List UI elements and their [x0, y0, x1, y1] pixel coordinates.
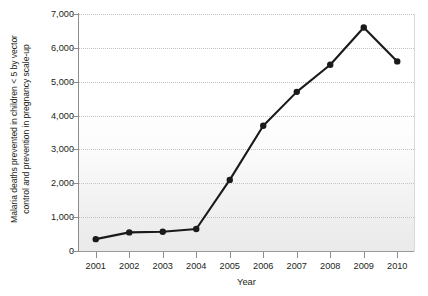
x-tick-mark-2001 [96, 252, 97, 258]
y-tick-label-5000: 5,000 [36, 77, 74, 87]
x-tick-mark-2009 [364, 252, 365, 258]
y-tick-mark-1000 [72, 217, 78, 218]
y-tick-label-2000: 2,000 [36, 178, 74, 188]
data-point-markers [93, 24, 401, 242]
y-tick-mark-4000 [72, 116, 78, 117]
y-tick-mark-5000 [72, 82, 78, 83]
data-point-2007 [294, 89, 300, 95]
x-tick-mark-2004 [196, 252, 197, 258]
y-axis-title: Malaria deaths prevented in children < 5… [0, 0, 40, 258]
y-axis-tick-labels: 01,0002,0003,0004,0005,0006,0007,000 [36, 0, 74, 296]
x-tick-mark-2006 [263, 252, 264, 258]
data-point-2004 [193, 226, 199, 232]
data-series-layer [79, 14, 414, 251]
y-axis-title-line-1: Malaria deaths prevented in children < 5… [8, 35, 20, 223]
x-axis-title: Year [79, 276, 414, 287]
y-tick-mark-7000 [72, 14, 78, 15]
y-axis-title-line-2: control and prevention in pregnancy scal… [20, 35, 32, 223]
data-point-2003 [160, 229, 166, 235]
y-tick-mark-2000 [72, 183, 78, 184]
data-point-2002 [126, 229, 132, 235]
data-point-2010 [394, 58, 400, 64]
x-tick-mark-2007 [297, 252, 298, 258]
y-tick-mark-6000 [72, 48, 78, 49]
data-point-2005 [227, 177, 233, 183]
data-point-2001 [93, 236, 99, 242]
data-point-2008 [327, 62, 333, 68]
y-tick-mark-3000 [72, 149, 78, 150]
x-tick-mark-2002 [129, 252, 130, 258]
x-tick-mark-2010 [397, 252, 398, 258]
y-tick-label-0: 0 [36, 246, 74, 256]
y-tick-label-1000: 1,000 [36, 212, 74, 222]
data-point-2009 [361, 24, 367, 30]
x-tick-mark-2008 [330, 252, 331, 258]
y-tick-label-4000: 4,000 [36, 111, 74, 121]
y-tick-label-6000: 6,000 [36, 43, 74, 53]
gridline-0 [79, 251, 414, 252]
x-tick-mark-2003 [163, 252, 164, 258]
y-tick-label-3000: 3,000 [36, 144, 74, 154]
data-point-2006 [260, 123, 266, 129]
x-tick-mark-2005 [230, 252, 231, 258]
line-chart-figure: Malaria deaths prevented in children < 5… [0, 0, 428, 296]
plot-area [79, 14, 415, 252]
y-tick-mark-0 [72, 251, 78, 252]
data-line-malaria-deaths-prevented [96, 28, 398, 240]
x-tick-label-2010: 2010 [377, 261, 417, 272]
y-tick-label-7000: 7,000 [36, 9, 74, 19]
